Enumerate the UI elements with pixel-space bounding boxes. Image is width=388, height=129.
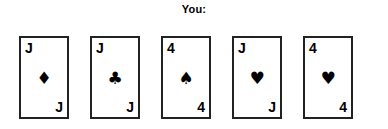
card-rank-top-left: 4 — [309, 41, 317, 55]
player-hand-area: You: J ♦ J J ♣ J 4 ♠ 4 J ♥ J 4 ♥ 4 — [0, 0, 388, 129]
playing-card-5[interactable]: 4 ♥ 4 — [303, 36, 353, 119]
heart-icon: ♥ — [305, 69, 351, 86]
heart-icon: ♥ — [234, 69, 280, 86]
hand-label: You: — [0, 3, 388, 16]
spade-icon: ♠ — [163, 69, 209, 86]
playing-card-2[interactable]: J ♣ J — [90, 36, 140, 119]
card-rank-bottom-right: 4 — [197, 100, 205, 114]
card-rank-bottom-right: 4 — [339, 100, 347, 114]
diamond-icon: ♦ — [21, 69, 67, 86]
playing-card-1[interactable]: J ♦ J — [19, 36, 69, 119]
club-icon: ♣ — [92, 69, 138, 86]
card-rank-top-left: J — [238, 41, 246, 55]
playing-card-4[interactable]: J ♥ J — [232, 36, 282, 119]
card-rank-top-left: J — [96, 41, 104, 55]
card-rank-top-left: 4 — [167, 41, 175, 55]
card-rank-bottom-right: J — [268, 100, 276, 114]
playing-card-3[interactable]: 4 ♠ 4 — [161, 36, 211, 119]
card-rank-bottom-right: J — [126, 100, 134, 114]
card-row: J ♦ J J ♣ J 4 ♠ 4 J ♥ J 4 ♥ 4 — [19, 36, 371, 120]
card-rank-top-left: J — [25, 41, 33, 55]
card-rank-bottom-right: J — [55, 100, 63, 114]
